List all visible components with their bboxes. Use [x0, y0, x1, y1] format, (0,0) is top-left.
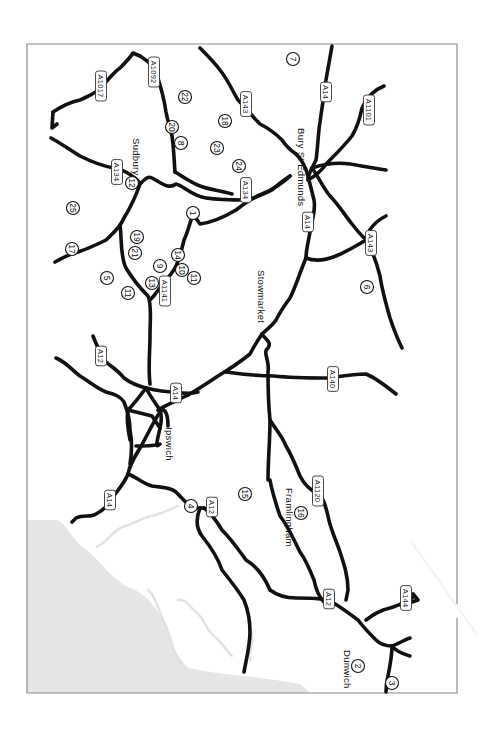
marker-number: 15: [240, 489, 250, 499]
numbered-marker: 25: [67, 202, 80, 215]
town-label: Stowmarket: [256, 270, 267, 323]
marker-number: 2: [353, 664, 363, 669]
road-label: A12: [207, 500, 216, 514]
road-shield: A144: [401, 586, 412, 611]
road-label: A144: [401, 589, 410, 608]
numbered-marker: 24: [233, 160, 246, 173]
fold-line: [410, 540, 478, 636]
road-shield: A140: [328, 367, 339, 392]
road-label: A14: [321, 85, 330, 99]
road-label: A12: [324, 592, 333, 606]
numbered-marker: 5: [101, 272, 114, 285]
marker-number: 3: [387, 681, 397, 686]
sea-area: [27, 520, 310, 693]
road-label: A143: [366, 234, 375, 253]
road-label: A1092: [149, 60, 158, 83]
marker-number: 5: [102, 276, 112, 281]
road-shield: A14: [171, 383, 182, 403]
road-shield: A1141: [160, 276, 171, 306]
town-label: Bury St Edmunds: [296, 128, 307, 206]
road-label: A1017: [96, 74, 105, 97]
numbered-marker: 9: [154, 260, 167, 273]
town-label: Dunwich: [342, 650, 353, 689]
road-shield: A143: [366, 231, 377, 256]
road-shield: A134: [241, 178, 252, 203]
marker-number: 8: [176, 141, 186, 146]
marker-number: 25: [68, 203, 78, 213]
map-canvas: A1017A1092A143A14A1101A134A134A14A143A11…: [0, 0, 485, 737]
road-label: A1101: [364, 99, 373, 122]
marker-number: 13: [147, 278, 157, 288]
road-label: A14: [303, 215, 312, 229]
numbered-marker: 13: [146, 277, 159, 290]
marker-number: 19: [132, 232, 142, 242]
road-label: A143: [241, 95, 250, 114]
numbered-marker: 19: [131, 231, 144, 244]
marker-number: 21: [130, 248, 140, 258]
marker-number: 10: [177, 265, 187, 275]
marker-number: 14: [173, 250, 183, 260]
road-shield: A134: [112, 160, 123, 185]
road-shield: A1092: [149, 57, 160, 87]
marker-number: 22: [180, 92, 190, 102]
road-label: A1120: [313, 480, 322, 503]
marker-number: 18: [220, 116, 230, 126]
numbered-marker: 18: [219, 115, 232, 128]
road-shield: A1101: [364, 95, 375, 125]
numbered-marker: 10: [176, 264, 189, 277]
road-label: A134: [112, 163, 121, 182]
numbered-marker: 20: [166, 121, 179, 134]
numbered-marker: 11: [188, 272, 201, 285]
marker-number: 7: [288, 57, 298, 62]
numbered-marker: 14: [172, 249, 185, 262]
road-shield: A12: [96, 346, 107, 366]
road-label: A14: [171, 386, 180, 400]
numbered-marker: 4: [185, 500, 198, 513]
road-shield: A14: [105, 490, 116, 510]
numbered-marker: 16: [295, 507, 308, 520]
road-label: A1141: [160, 280, 169, 303]
road-label: A140: [328, 370, 337, 389]
numbered-marker: 3: [386, 677, 399, 690]
numbered-marker: 15: [239, 488, 252, 501]
marker-number: 20: [167, 122, 177, 132]
numbered-marker: 22: [179, 91, 192, 104]
marker-number: 11: [123, 289, 133, 298]
town-label: Ipswich: [164, 427, 175, 461]
road-shield: A12: [207, 497, 218, 517]
road-label: A134: [241, 181, 250, 200]
numbered-marker: 23: [211, 142, 224, 155]
town-label: Sudbury: [131, 138, 142, 175]
marker-number: 17: [67, 244, 77, 254]
road-shield: A14: [321, 82, 332, 102]
town-label: Framlingham: [284, 488, 295, 547]
marker-number: 6: [362, 285, 372, 290]
road-label: A12: [96, 349, 105, 363]
road-label: A14: [105, 493, 114, 507]
numbered-marker: 11: [122, 287, 135, 300]
road-shield: A12: [324, 589, 335, 609]
marker-number: 24: [234, 161, 244, 171]
marker-number: 16: [296, 508, 306, 518]
marker-number: 11: [189, 274, 199, 283]
numbered-marker: 21: [129, 247, 142, 260]
marker-number: 4: [186, 504, 196, 509]
marker-number: 9: [155, 264, 165, 269]
numbered-marker: 12: [126, 177, 139, 190]
numbered-marker: 1: [187, 207, 200, 220]
road-shield: A1017: [96, 71, 107, 101]
numbered-marker: 17: [66, 243, 79, 256]
road-shield: A14: [303, 212, 314, 232]
road-shield: A143: [241, 92, 252, 117]
numbered-marker: 7: [287, 53, 300, 66]
road-shield: A1120: [313, 476, 324, 506]
marker-number: 12: [127, 178, 137, 188]
marker-number: 1: [188, 211, 198, 216]
numbered-marker: 6: [361, 281, 374, 294]
marker-number: 23: [212, 143, 222, 153]
numbered-marker: 8: [175, 137, 188, 150]
